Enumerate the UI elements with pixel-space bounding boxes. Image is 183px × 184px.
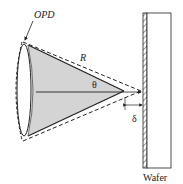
opd-wafer-diagram: OPD R θ δ Wafer xyxy=(0,0,183,184)
angle-label: θ xyxy=(92,79,97,90)
wafer-label: Wafer xyxy=(143,172,168,183)
cone-shading xyxy=(28,45,124,136)
gap-label: δ xyxy=(132,113,137,124)
wafer-hatched-surface xyxy=(143,13,147,168)
opd-label: OPD xyxy=(34,9,55,20)
radius-label: R xyxy=(79,52,86,63)
opd-pointer-arrow xyxy=(25,21,33,40)
wafer-body xyxy=(147,13,171,168)
